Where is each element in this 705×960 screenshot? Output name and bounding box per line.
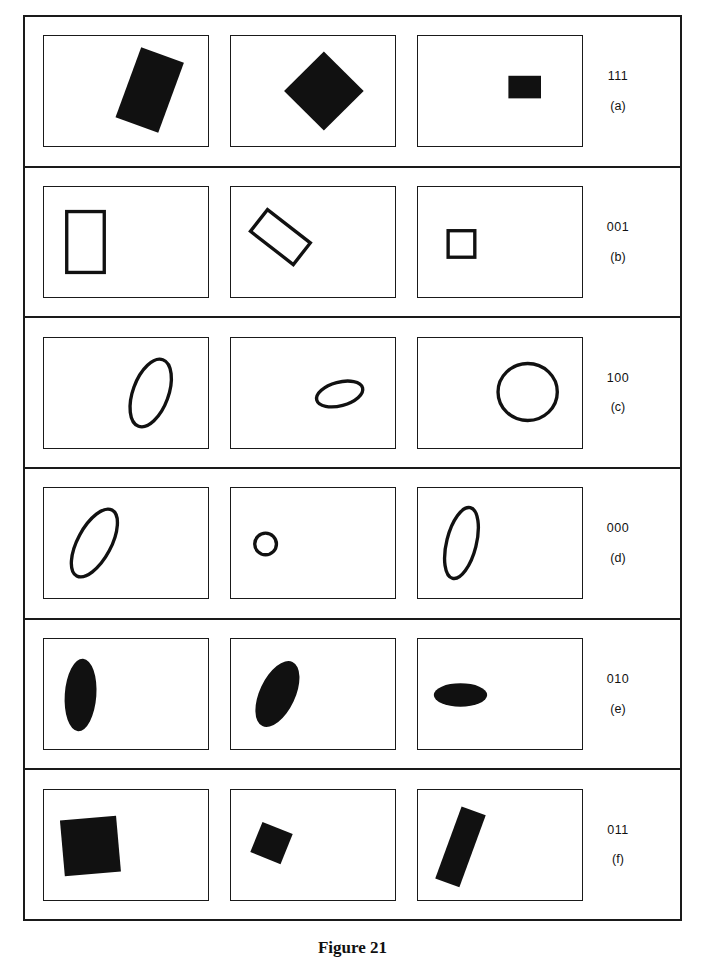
shape-cell [43,35,209,147]
shape-cell [230,35,396,147]
shape-cell [43,638,209,750]
row-label: 000(d) [570,469,666,618]
shape-cell [43,487,209,599]
figure-caption: Figure 21 [0,938,705,960]
outlined-ellipse-tilted-large-shape [62,503,127,585]
filled-ellipse-horizontal-shape [434,683,487,707]
row-code: 001 [607,221,629,234]
figure-row: 001(b) [25,168,680,319]
filled-square-diamond-shape [284,52,364,131]
row-cells [25,789,583,901]
shape-cell [230,337,396,449]
row-label: 011(f) [570,770,666,919]
row-sublabel: (f) [612,853,624,866]
filled-bar-rotated-shape [435,806,485,887]
row-cells [25,638,583,750]
row-sublabel: (a) [610,100,625,113]
row-cells [25,337,583,449]
shape-cell [230,638,396,750]
row-sublabel: (e) [610,703,625,716]
shape-cell [230,789,396,901]
outlined-rectangle-rotated-shape [250,210,310,265]
filled-rectangle-rotated-shape [116,48,184,134]
shape-cell [43,789,209,901]
row-code: 100 [607,372,629,385]
figure-row: 000(d) [25,469,680,620]
shape-cell [417,35,583,147]
figure-rows: 111(a)001(b)100(c)000(d)010(e)011(f) [25,17,680,919]
filled-rectangle-small-shape [508,76,541,99]
shape-cell [417,487,583,599]
filled-square-large-shape [60,815,121,876]
filled-square-small-rotated-shape [250,822,292,864]
shape-cell [43,337,209,449]
outlined-rectangle-upright-shape [67,212,105,273]
row-label: 010(e) [570,620,666,769]
outlined-ellipse-steep-shape [122,353,180,432]
row-label: 001(b) [570,168,666,317]
row-code: 000 [607,522,629,535]
row-cells [25,186,583,298]
row-label: 111(a) [570,17,666,166]
row-code: 011 [607,824,628,837]
row-code: 111 [608,70,629,83]
shape-cell [417,337,583,449]
outlined-ellipse-steep-tall-shape [438,505,484,583]
shape-cell [230,186,396,298]
outlined-ellipse-flat-small-shape [314,376,366,411]
row-sublabel: (c) [611,401,626,414]
figure-outer-frame: 111(a)001(b)100(c)000(d)010(e)011(f) [23,15,682,921]
shape-cell [417,638,583,750]
figure-page: 111(a)001(b)100(c)000(d)010(e)011(f) Fig… [0,0,705,960]
row-cells [25,487,583,599]
figure-row: 111(a) [25,17,680,168]
row-cells [25,35,583,147]
row-label: 100(c) [570,318,666,467]
outlined-square-small-shape [448,231,475,258]
outlined-circle-small-shape [255,534,277,556]
figure-row: 100(c) [25,318,680,469]
row-sublabel: (d) [610,552,625,565]
shape-cell [417,186,583,298]
figure-row: 010(e) [25,620,680,771]
filled-ellipse-vertical-shape [62,658,99,733]
shape-cell [417,789,583,901]
shape-cell [230,487,396,599]
outlined-circle-large-shape [498,363,557,420]
row-code: 010 [607,673,629,686]
row-sublabel: (b) [610,251,625,264]
shape-cell [43,186,209,298]
figure-row: 011(f) [25,770,680,919]
filled-ellipse-tilted-shape [246,654,308,733]
